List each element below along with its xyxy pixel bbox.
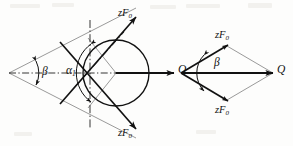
left-force-label-upper: zF0 [118,8,132,20]
left-force-label-lower: zF0 [118,128,132,140]
rhombus-side-upper-right [227,46,273,73]
force-vector-lower [181,73,228,101]
left-angle-label-beta: β [42,66,48,78]
force-vector-upper [181,45,228,73]
rhombus-side-lower-right [227,73,273,100]
force-vector-upper [60,17,136,104]
right-angle-label-beta: β [214,57,220,69]
force-vector-lower [60,42,136,129]
left-resultant-label-q: Q [178,64,186,76]
right-resultant-label-q: Q [277,64,285,76]
right-force-label-upper: zF0 [215,30,229,42]
right-force-label-lower: zF0 [215,105,229,117]
right-diagram-group [181,45,273,101]
left-diagram-group [9,8,174,138]
figure-root: zF0 zF0 Q β α1 zF0 zF0 Q β [0,0,293,146]
left-angle-label-alpha1: α1 [66,65,76,77]
